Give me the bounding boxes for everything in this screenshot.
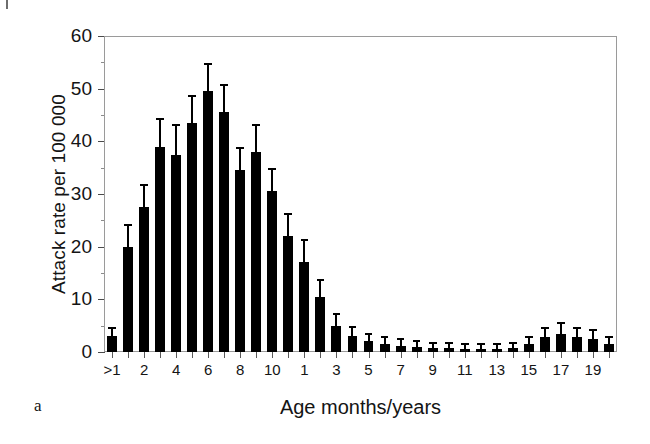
x-tick-mark <box>208 352 209 358</box>
error-bar-stem <box>239 149 241 189</box>
x-tick-mark <box>336 352 337 358</box>
error-bar-stem <box>223 86 225 139</box>
error-bar-cap-lower <box>349 339 357 341</box>
error-bar-cap-lower <box>477 349 485 351</box>
x-tick-mark <box>385 352 386 358</box>
panel-letter: a <box>34 396 42 416</box>
x-tick-mark <box>481 352 482 358</box>
error-bar-cap-upper <box>573 327 581 329</box>
error-bar-cap-upper <box>445 342 453 344</box>
error-bar-cap-upper <box>429 342 437 344</box>
x-tick-mark <box>144 352 145 358</box>
x-tick-mark <box>112 352 113 358</box>
x-axis-title: Age months/years <box>104 396 617 419</box>
error-bar-cap-lower <box>156 168 164 170</box>
y-tick-label: 60 <box>46 26 92 45</box>
x-tick-mark <box>465 352 466 358</box>
error-bar-stem <box>175 126 177 184</box>
error-bar-cap-lower <box>493 349 501 351</box>
x-tick-mark <box>433 352 434 358</box>
x-tick-mark <box>545 352 546 358</box>
error-bar-cap-lower <box>108 340 116 342</box>
error-bar-cap-upper <box>301 239 309 241</box>
x-tick-mark <box>304 352 305 358</box>
bar <box>171 155 181 353</box>
figure-panel-a: Attack rate per 100 000 0102030405060 >1… <box>0 0 650 444</box>
error-bar-cap-upper <box>413 340 421 342</box>
error-bar-stem <box>255 126 257 176</box>
error-bar-cap-upper <box>140 184 148 186</box>
error-bar-cap-upper <box>172 124 180 126</box>
error-bar-cap-lower <box>589 343 597 345</box>
error-bar-cap-lower <box>333 332 341 334</box>
x-tick-mark <box>224 352 225 358</box>
error-bar-cap-upper <box>317 279 325 281</box>
y-tick-label: 40 <box>46 131 92 150</box>
error-bar-stem <box>207 65 209 118</box>
x-tick-mark <box>561 352 562 358</box>
error-bar-cap-lower <box>140 226 148 228</box>
error-bar-cap-lower <box>236 187 244 189</box>
error-bar-cap-upper <box>397 338 405 340</box>
error-bar-cap-lower <box>301 279 309 281</box>
error-bar-cap-upper <box>252 124 260 126</box>
x-tick-mark <box>593 352 594 358</box>
y-tick-label: 50 <box>46 79 92 98</box>
error-bar-cap-upper <box>461 343 469 345</box>
error-bar-cap-upper <box>108 327 116 329</box>
error-bar-cap-lower <box>573 342 581 344</box>
error-bar-stem <box>143 186 145 228</box>
x-tick-mark <box>240 352 241 358</box>
bar <box>155 147 165 352</box>
error-bar-cap-upper <box>349 326 357 328</box>
x-tick-mark <box>401 352 402 358</box>
x-tick-mark <box>513 352 514 358</box>
error-bar-cap-lower <box>557 339 565 341</box>
error-bar-cap-upper <box>333 313 341 315</box>
bar <box>267 191 277 352</box>
error-bar-cap-lower <box>252 174 260 176</box>
error-bar-stem <box>319 281 321 310</box>
bar <box>251 152 261 352</box>
x-tick-mark <box>320 352 321 358</box>
error-bar-cap-lower <box>413 348 421 350</box>
y-tick-label: 0 <box>46 342 92 361</box>
error-bar-cap-lower <box>124 266 132 268</box>
error-bar-cap-lower <box>541 342 549 344</box>
error-bar-cap-lower <box>605 346 613 348</box>
error-bar-cap-upper <box>557 322 565 324</box>
error-bar-stem <box>191 97 193 150</box>
error-bar-stem <box>127 226 129 268</box>
error-bar-cap-lower <box>365 344 373 346</box>
error-bar-cap-lower <box>317 308 325 310</box>
x-tick-mark <box>449 352 450 358</box>
error-bar-cap-lower <box>268 210 276 212</box>
error-bar-cap-lower <box>220 137 228 139</box>
error-bar-cap-lower <box>381 346 389 348</box>
error-bar-cap-lower <box>397 347 405 349</box>
error-bar-cap-upper <box>284 213 292 215</box>
bar <box>203 91 213 352</box>
error-bar-stem <box>159 120 161 170</box>
error-bar-cap-upper <box>188 95 196 97</box>
error-bar-cap-upper <box>605 336 613 338</box>
x-tick-mark <box>160 352 161 358</box>
error-bar-cap-upper <box>220 84 228 86</box>
error-bar-cap-lower <box>204 116 212 118</box>
error-bar-cap-upper <box>365 333 373 335</box>
x-tick-mark <box>256 352 257 358</box>
bar <box>235 170 245 352</box>
x-tick-mark <box>609 352 610 358</box>
x-tick-mark <box>272 352 273 358</box>
bar-series <box>104 36 617 352</box>
scan-corner-mark <box>6 0 8 9</box>
error-bar-cap-lower <box>172 181 180 183</box>
error-bar-cap-lower <box>429 348 437 350</box>
error-bar-cap-upper <box>525 336 533 338</box>
x-tick-mark <box>288 352 289 358</box>
error-bar-cap-upper <box>589 329 597 331</box>
error-bar-cap-lower <box>525 346 533 348</box>
error-bar-cap-lower <box>509 349 517 351</box>
error-bar-cap-lower <box>461 349 469 351</box>
x-tick-mark <box>176 352 177 358</box>
